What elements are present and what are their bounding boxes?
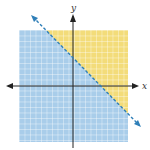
y-axis-label: y — [70, 3, 77, 13]
x-axis-arrow-left-icon — [6, 83, 13, 89]
x-axis-arrow-right-icon — [132, 83, 139, 89]
x-axis-label: x — [142, 81, 147, 91]
inequality-graph: x y — [0, 0, 150, 150]
y-axis-arrow-up-icon — [70, 14, 76, 22]
